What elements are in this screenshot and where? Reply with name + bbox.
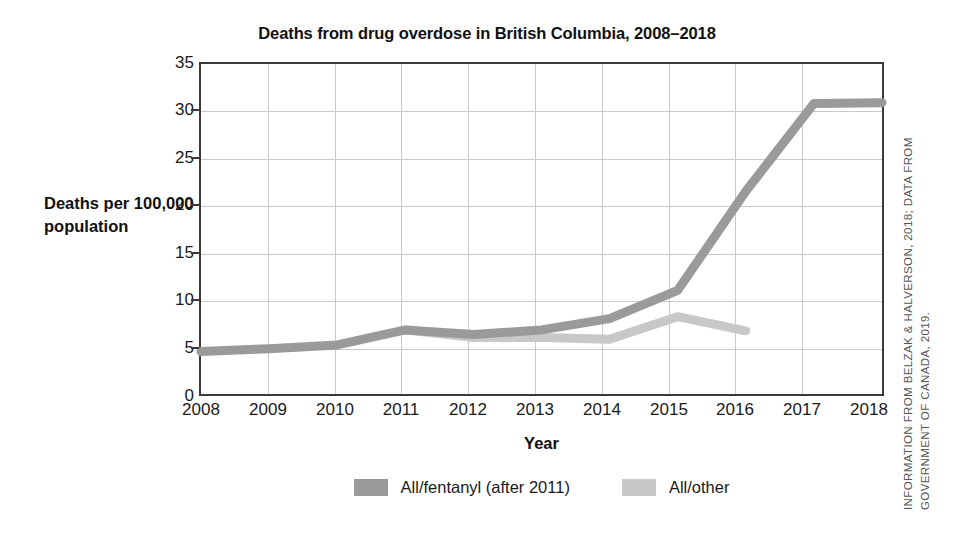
x-tick-label: 2013 [500,400,570,420]
x-tick-label: 2012 [433,400,503,420]
series-line-all-fentanyl [201,103,882,352]
y-tick-mark [191,157,199,159]
y-tick-label: 15 [152,244,194,261]
page-title: Deaths from drug overdose in British Col… [0,24,974,43]
x-tick-label: 2016 [700,400,770,420]
y-tick-mark [191,347,199,349]
y-tick-mark [191,299,199,301]
y-tick-label: 35 [152,54,194,71]
x-tick-label: 2014 [567,400,637,420]
source-credit: INFORMATION FROM BELZAK & HALVERSON, 201… [900,110,935,510]
y-tick-mark [191,109,199,111]
y-tick-label: 25 [152,149,194,166]
legend-swatch-icon [354,479,388,496]
y-tick-mark [191,252,199,254]
y-tick-label: 10 [152,291,194,308]
legend-item-all-other[interactable]: All/other [622,478,730,497]
source-credit-text: INFORMATION FROM BELZAK & HALVERSON, 201… [902,137,931,510]
legend-item-all-fentanyl[interactable]: All/fentanyl (after 2011) [354,478,570,497]
y-tick-mark [191,204,199,206]
y-tick-label: 5 [152,339,194,356]
x-axis-label: Year [199,434,884,453]
x-tick-label: 2015 [634,400,704,420]
x-tick-label: 2011 [366,400,436,420]
plot-area [199,62,884,396]
legend-label: All/fentanyl (after 2011) [401,478,570,497]
legend: All/fentanyl (after 2011) All/other [199,478,884,497]
legend-swatch-icon [622,479,656,496]
x-tick-label: 2010 [300,400,370,420]
legend-label: All/other [669,478,730,497]
x-tick-label: 2008 [166,400,236,420]
x-tick-label: 2018 [834,400,904,420]
chart-page: Deaths from drug overdose in British Col… [0,0,974,539]
series-plot [201,64,882,394]
y-tick-label: 20 [152,196,194,213]
x-tick-label: 2009 [233,400,303,420]
x-tick-label: 2017 [767,400,837,420]
y-tick-label: 30 [152,101,194,118]
